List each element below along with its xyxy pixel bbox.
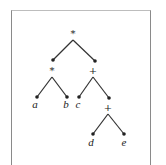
edge-inner-d — [93, 114, 108, 134]
leaf-label-c: c — [76, 98, 81, 110]
node-dot-right — [93, 59, 97, 63]
edge-root-left — [53, 40, 73, 60]
edge-rightop-inner — [93, 77, 109, 98]
leaf-label-d: d — [88, 136, 94, 148]
edge-leftop-a — [37, 77, 52, 97]
root-operator-label: * — [71, 28, 76, 39]
leaf-label-e: e — [122, 136, 127, 148]
edge-leftop-b — [52, 77, 67, 97]
expression-tree: * * + + a b c d e — [0, 0, 166, 165]
edge-inner-e — [108, 114, 124, 134]
edge-root-right — [73, 40, 95, 61]
right-operator-label: + — [89, 65, 97, 76]
node-dot-inner — [107, 96, 111, 100]
edge-rightop-c — [79, 77, 93, 97]
leaf-label-b: b — [63, 98, 69, 110]
leaf-label-a: a — [32, 98, 38, 110]
left-operator-label: * — [50, 65, 55, 76]
node-dot-left — [51, 58, 55, 62]
tree-edges — [37, 40, 124, 134]
inner-operator-label: + — [104, 102, 112, 113]
